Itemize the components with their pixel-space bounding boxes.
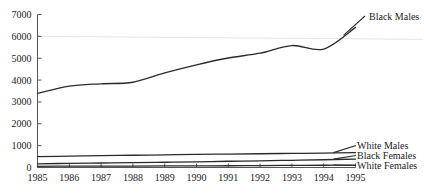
leader-line-black-males: [344, 16, 366, 35]
line-chart: 01000200030004000500060007000 1985198619…: [0, 0, 424, 196]
y-tick-label-3000: 3000: [12, 96, 32, 107]
series-label-white-females: White Females: [357, 160, 417, 171]
series-line-white-females: [38, 165, 356, 166]
x-tick-label-1994: 1994: [314, 172, 334, 183]
y-tick-label-7000: 7000: [12, 9, 32, 20]
x-tick-label-1987: 1987: [91, 172, 111, 183]
x-tick-label-1985: 1985: [28, 172, 48, 183]
x-tick-label-1988: 1988: [123, 172, 143, 183]
series-line-white-males: [38, 153, 356, 157]
x-axis-tick-labels: 1985198619871988198919901991199219931994…: [28, 172, 366, 183]
series-lines: [38, 27, 356, 166]
x-tick-label-1989: 1989: [155, 172, 175, 183]
gridline-6000: [38, 36, 424, 39]
gridlines: [38, 36, 424, 39]
y-tick-label-2000: 2000: [12, 118, 32, 129]
x-tick-label-1992: 1992: [250, 172, 270, 183]
x-tick-label-1993: 1993: [282, 172, 302, 183]
leader-line-white-males: [334, 146, 357, 153]
chart-canvas: 01000200030004000500060007000 1985198619…: [0, 0, 424, 196]
x-tick-label-1995: 1995: [346, 172, 366, 183]
y-tick-label-6000: 6000: [12, 31, 32, 42]
x-tick-label-1990: 1990: [187, 172, 207, 183]
y-tick-label-5000: 5000: [12, 53, 32, 64]
y-tick-label-4000: 4000: [12, 75, 32, 86]
y-tick-label-1000: 1000: [12, 140, 32, 151]
x-tick-label-1991: 1991: [218, 172, 238, 183]
series-label-black-males: Black Males: [369, 11, 419, 22]
x-tick-label-1986: 1986: [59, 172, 79, 183]
y-axis-ticks: [38, 15, 42, 168]
y-axis-tick-labels: 01000200030004000500060007000: [12, 9, 32, 173]
series-line-black-females: [38, 159, 356, 164]
